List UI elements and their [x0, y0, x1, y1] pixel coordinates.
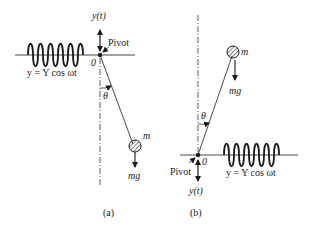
pivot-label: Pivot [170, 166, 191, 177]
mass-label: m [143, 130, 150, 141]
displacement-label: y(t) [91, 10, 107, 22]
origin-label: 0 [91, 57, 96, 68]
excitation-label: y = Y cos ωt [226, 167, 276, 178]
caption-b: (b) [190, 207, 202, 219]
diagram-svg: y(t) Pivot 0 θ m mg y = Y cos ωt (a) m m… [0, 0, 313, 229]
weight-label: mg [128, 170, 140, 181]
weight-label: mg [229, 85, 241, 96]
angle-label: θ [103, 90, 108, 101]
pendulum-diagram: y(t) Pivot 0 θ m mg y = Y cos ωt (a) m m… [0, 0, 313, 229]
excitation-label: y = Y cos ωt [27, 67, 77, 78]
pivot-leader-arrow-icon [189, 158, 195, 163]
figure-a: y(t) Pivot 0 θ m mg y = Y cos ωt (a) [15, 10, 150, 219]
origin-label: 0 [202, 156, 207, 167]
displacement-label: y(t) [188, 185, 204, 197]
angle-arc-icon [100, 86, 111, 88]
mass-label: m [241, 46, 248, 57]
pivot-point-icon [196, 153, 200, 157]
angle-arc-icon [198, 123, 209, 124]
mass-bob-icon [227, 46, 239, 58]
pivot-label: Pivot [108, 37, 129, 48]
mass-bob-icon [129, 140, 141, 152]
angle-label: θ [201, 110, 206, 121]
caption-a: (a) [103, 207, 114, 219]
figure-b: m mg θ 0 Pivot y(t) y = Y cos ωt (b) [170, 15, 298, 219]
pendulum-rod [198, 56, 232, 155]
pivot-point-icon [98, 53, 102, 57]
